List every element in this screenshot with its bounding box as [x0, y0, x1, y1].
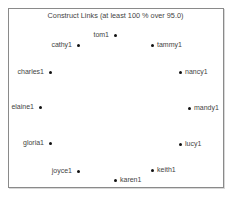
node-dot-icon: [114, 179, 117, 182]
node-dot-icon: [49, 71, 52, 74]
node-dot-icon: [188, 107, 191, 110]
node-label: gloria1: [23, 139, 44, 146]
node-label: nancy1: [185, 68, 208, 75]
node-dot-icon: [49, 142, 52, 145]
node-label: mandy1: [194, 104, 219, 111]
node-label: karen1: [120, 176, 141, 183]
node-label: charles1: [18, 68, 44, 75]
node-label: tammy1: [157, 41, 182, 48]
node-label: elaine1: [11, 103, 34, 110]
node-label: tom1: [93, 31, 109, 38]
node-label: lucy1: [185, 140, 201, 147]
node-dot-icon: [151, 44, 154, 47]
node-dot-icon: [179, 143, 182, 146]
node-dot-icon: [77, 170, 80, 173]
node-label: keith1: [157, 166, 176, 173]
node-dot-icon: [39, 106, 42, 109]
node-dot-icon: [151, 169, 154, 172]
node-dot-icon: [114, 34, 117, 37]
node-dot-icon: [179, 71, 182, 74]
node-dot-icon: [77, 44, 80, 47]
diagram-title: Construct Links (at least 100 % over 95.…: [0, 11, 231, 20]
node-label: cathy1: [51, 41, 72, 48]
node-label: joyce1: [52, 167, 72, 174]
